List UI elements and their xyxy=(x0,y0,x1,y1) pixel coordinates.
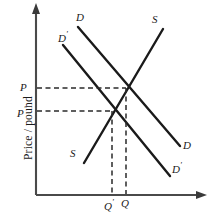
curve-label-demand-shifted-top-text: D xyxy=(58,32,66,44)
curve-demand-shifted xyxy=(63,45,170,176)
price-tick-P-prime-text: P xyxy=(17,107,24,119)
price-tick-P-prime: P′ xyxy=(17,105,26,119)
curve-label-demand-original-end: D xyxy=(183,140,191,151)
curve-label-supply-end: S xyxy=(152,14,158,25)
curve-label-supply-start: S xyxy=(70,148,76,159)
price-tick-P-prime-mark: ′ xyxy=(24,104,26,114)
supply-demand-chart: Price / pound P P′ Q′ Q D D D′ D′ S S xyxy=(0,0,210,217)
curve-label-supply-start-text: S xyxy=(70,147,76,159)
price-tick-P-text: P xyxy=(20,81,27,93)
curve-label-demand-shifted-top: D′ xyxy=(58,30,68,44)
curve-label-demand-shifted-end-mark: ′ xyxy=(180,160,182,170)
quantity-tick-Q-text: Q xyxy=(121,197,129,209)
curve-label-demand-shifted-end: D′ xyxy=(172,161,182,175)
quantity-tick-Q-prime-text: Q xyxy=(104,200,112,212)
curve-label-demand-original-top: D xyxy=(76,12,84,23)
quantity-tick-Q-prime-mark: ′ xyxy=(112,197,114,207)
curve-label-demand-shifted-end-text: D xyxy=(172,163,180,175)
curve-label-demand-original-top-text: D xyxy=(76,11,84,23)
curve-label-supply-end-text: S xyxy=(152,13,158,25)
quantity-tick-Q-prime: Q′ xyxy=(104,198,114,212)
price-tick-P: P xyxy=(20,82,27,93)
quantity-tick-Q: Q xyxy=(121,198,129,209)
curve-label-demand-shifted-top-mark: ′ xyxy=(66,29,68,39)
curve-label-demand-original-end-text: D xyxy=(183,139,191,151)
